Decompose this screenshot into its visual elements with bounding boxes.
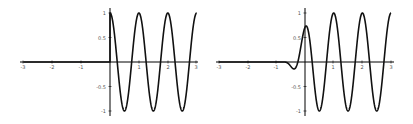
left-plot: -3 -2 -1 1 2 3 1 0.5 -0.5 -1 [20,8,198,116]
left-xtick-label: -2 [50,64,55,70]
right-ytick-label: 1 [298,10,301,16]
right-ytick-label: 0.5 [293,35,301,41]
figure: -3 -2 -1 1 2 3 1 0.5 -0.5 -1 [0,0,413,124]
left-ytick-label: -1 [101,108,106,114]
right-xtick-label: -1 [274,64,279,70]
right-xtick-label: 1 [331,64,334,70]
right-xtick-label: -3 [217,64,222,70]
left-ytick-label: -0.5 [96,84,106,90]
right-ytick-label: -1 [296,108,301,114]
right-xtick-label: 3 [389,64,392,70]
left-xtick-label: 3 [194,64,197,70]
right-ytick-label: -0.5 [291,84,301,90]
left-ytick-label: 1 [103,10,106,16]
right-plot: -3 -2 -1 1 2 3 1 0.5 -0.5 -1 [216,8,394,116]
right-xtick-label: 2 [360,64,363,70]
left-xtick-label: 1 [137,64,140,70]
left-ytick-label: 0.5 [98,35,106,41]
plots-svg: -3 -2 -1 1 2 3 1 0.5 -0.5 -1 [0,0,413,124]
right-xtick-label: -2 [246,64,251,70]
left-xtick-label: -1 [79,64,84,70]
left-xtick-label: -3 [21,64,26,70]
left-xtick-label: 2 [166,64,169,70]
